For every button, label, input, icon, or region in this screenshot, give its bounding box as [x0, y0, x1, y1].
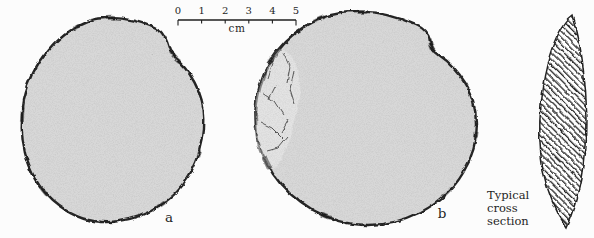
scale-tick-label-3: 3	[246, 5, 252, 16]
cross-section-caption-line-3: section	[487, 214, 529, 228]
artifact-figure: a 0 1 2 3 4 5 cm	[0, 0, 594, 238]
disc-a-label: a	[165, 209, 173, 225]
scale-tick-label-5: 5	[293, 5, 299, 16]
disc-b-label: b	[438, 205, 447, 221]
scale-tick-label-2: 2	[222, 5, 228, 16]
scale-tick-label-1: 1	[198, 5, 204, 16]
cross-section-caption-line-2: cross	[487, 201, 518, 215]
scale-tick-label-0: 0	[175, 5, 181, 16]
scale-tick-label-4: 4	[269, 5, 275, 16]
scale-unit-label: cm	[229, 22, 246, 34]
cross-section-caption-line-1: Typical	[487, 188, 530, 202]
figure-svg: a 0 1 2 3 4 5 cm	[0, 0, 594, 238]
